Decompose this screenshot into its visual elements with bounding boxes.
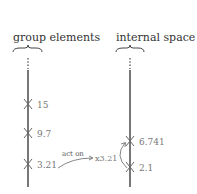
svg-text:3.21: 3.21 [37, 160, 57, 170]
operator-label: x3.21 [95, 154, 117, 163]
left-brace [13, 45, 42, 52]
svg-text:2.1: 2.1 [139, 163, 153, 173]
right-axis-title: internal space [116, 31, 195, 44]
transform-arrow [120, 143, 127, 168]
left-mark-3.21: 3.21 [24, 159, 57, 170]
diagram: group elements internal space 15 9.7 3.2… [0, 0, 197, 194]
right-mark-6.741: 6.741 [126, 136, 165, 147]
right-brace [116, 45, 144, 52]
act-on-arrow [58, 158, 92, 168]
left-axis-title: group elements [13, 31, 101, 44]
svg-text:15: 15 [37, 100, 49, 110]
svg-text:9.7: 9.7 [37, 129, 52, 139]
act-on-label: act on [62, 150, 84, 158]
svg-text:6.741: 6.741 [139, 137, 165, 147]
